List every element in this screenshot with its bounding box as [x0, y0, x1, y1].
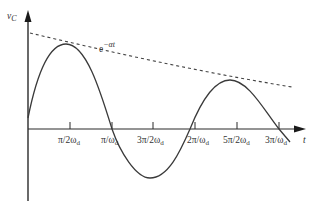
tick-label: 3π/2ωd [137, 135, 164, 147]
tick-label: 5π/2ωd [223, 135, 250, 147]
envelope-curve [30, 33, 292, 87]
tick-labels: π/2ωd π/ωd 3π/2ωd 2π/ωd 5π/2ωd 3π/ωd [58, 135, 287, 147]
voltage-curve [28, 44, 290, 178]
tick-label: π/ωd [101, 135, 119, 147]
x-ticks [70, 122, 279, 129]
tick-label: 3π/ωd [265, 135, 287, 147]
damped-oscillation-diagram: vC t e−αt π/2ωd π/ωd 3π/2ωd 2π/ωd 5π/2ωd… [0, 0, 320, 211]
tick-label: 2π/ωd [187, 135, 209, 147]
x-axis-label: t [303, 135, 306, 145]
tick-label: π/2ωd [58, 135, 80, 147]
y-axis-arrow-icon [25, 10, 32, 22]
x-axis-arrow-icon [294, 126, 306, 133]
y-axis-label: vC [7, 11, 17, 23]
